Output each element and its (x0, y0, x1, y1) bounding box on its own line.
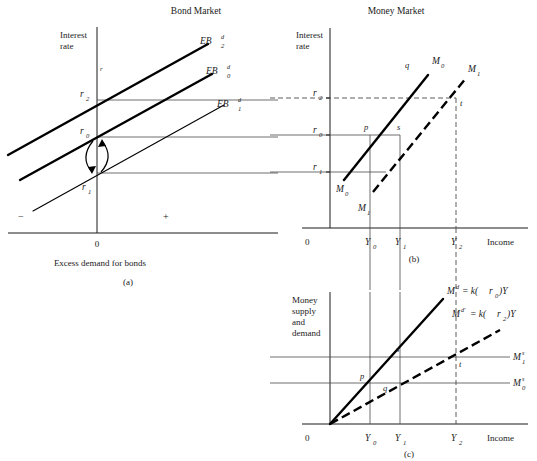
panel-b-y2-base: Y (451, 237, 458, 247)
panel-a-eb2-sub: 2 (221, 42, 225, 49)
panel-b-curve-label-m1-lower: M 1 (357, 203, 370, 216)
panel-b-curve-label-m1-upper: M 1 (467, 64, 480, 77)
panel-c-point-p: p (359, 371, 364, 381)
panel-a-y-axis-label-line2: rate (60, 41, 74, 51)
panel-b-curve-m0 (344, 75, 428, 180)
panel-a-rate-base-r0: r (80, 126, 84, 136)
panel-c-md-eq: = k( (462, 286, 479, 297)
panel-a-rate-label-r1: r 1 (82, 182, 91, 195)
panel-b-income-label-y1: Y 1 (395, 237, 406, 250)
panel-c-label: (c) (404, 449, 414, 459)
panel-c-x-axis-label: Income (487, 433, 514, 443)
panel-b-title: Money Market (368, 6, 425, 16)
panel-c-ms1-sub: 1 (522, 358, 525, 365)
panel-b-m0-lower-sub: 0 (345, 190, 349, 197)
panel-c-ms1-base: M (512, 352, 522, 362)
panel-c-mdp-lhs: M (451, 309, 461, 319)
panel-a-rate-sub-r1: 1 (88, 188, 91, 195)
panel-c-md-rhs: )Y (498, 286, 509, 297)
panel-b-m0-upper-sub: 0 (441, 62, 445, 69)
panel-c-point-q: q (383, 383, 388, 393)
panel-b-origin-label: 0 (305, 237, 310, 247)
panel-a: Bond Market Interest rate r r 2 r 0 (8, 6, 278, 287)
panel-b-m1-lower-sub: 1 (367, 209, 370, 216)
panel-b-m0-lower-base: M (335, 184, 345, 194)
panel-a-eb1-sup: d (238, 96, 242, 103)
panel-b-point-p: p (363, 122, 368, 132)
panel-c-y-axis-label-0: Money (292, 295, 318, 305)
panel-b-y-axis-label-line1: Interest (296, 30, 323, 40)
panel-b-point-s: s (397, 122, 401, 132)
panel-b-point-q: q (405, 60, 410, 70)
panel-c-md-sup: d (456, 283, 460, 290)
panel-c-mdp-arg-base: r (497, 309, 501, 319)
panel-b-rate-sub-r1: 1 (319, 168, 322, 175)
panel-c-y2-base: Y (451, 433, 458, 443)
panel-c-ms0-sub: 0 (522, 384, 526, 391)
panel-b-income-label-y2: Y 2 (451, 237, 463, 250)
panel-a-rate-sub-r2: 2 (86, 95, 90, 102)
panel-a-eb2-base: EB (199, 36, 212, 46)
panel-c-y-axis-label-3: demand (292, 328, 321, 338)
panel-c: Money supply and demand M d = k( r 0 )Y (270, 283, 528, 459)
panel-b-y1-sub: 1 (403, 243, 406, 250)
panel-b: Money Market Interest rate (270, 6, 528, 290)
panel-b-y1-base: Y (395, 237, 402, 247)
panel-c-y2-sub: 2 (459, 439, 463, 446)
panel-b-income-label-y0: Y 0 (365, 237, 377, 250)
panel-b-rate-label-r1: r 1 (313, 162, 330, 175)
panel-a-eb2-sup: d (221, 33, 225, 40)
panel-b-m0-upper-base: M (431, 56, 441, 66)
panel-c-income-label-y2: Y 2 (451, 433, 463, 446)
panel-c-ms0-base: M (512, 378, 522, 388)
panel-b-rate-base-r0: r (313, 125, 317, 135)
panel-c-ms0-sup: s (522, 375, 525, 382)
panel-b-y2-sub: 2 (459, 243, 463, 250)
panel-c-mdp-rhs: )Y (506, 309, 517, 320)
panel-b-y0-base: Y (365, 237, 372, 247)
panel-c-y-axis-label-1: supply (292, 306, 317, 316)
panel-b-curve-label-m0-upper: M 0 (431, 56, 445, 69)
panel-c-y1-base: Y (395, 433, 402, 443)
panel-c-curve-md-prime (330, 330, 500, 424)
panel-b-rate-label-r0: r 0 (313, 125, 330, 138)
panel-b-rate-sub-r0: 0 (319, 131, 323, 138)
panel-c-label-md-prime: M d' = k( r 2 )Y (451, 306, 517, 322)
panel-a-rate-label-r0: r 0 (80, 126, 90, 139)
panel-a-origin-label: 0 (95, 239, 100, 249)
panel-b-y-axis-label-line2: rate (296, 41, 310, 51)
panel-c-income-label-y0: Y 0 (365, 433, 377, 446)
panel-c-curve-md (330, 299, 443, 424)
panel-b-x-axis-label: Income (487, 237, 514, 247)
panel-a-rate-base-r2: r (80, 89, 84, 99)
panel-c-y-axis-label-2: and (292, 317, 305, 327)
panel-c-label-md: M d = k( r 0 )Y (446, 283, 509, 299)
panel-c-mdp-eq: = k( (470, 309, 487, 320)
panel-b-m1-upper-base: M (467, 64, 477, 74)
panel-b-rate-sub-r2: 2 (319, 94, 323, 101)
panel-b-curve-label-m0-lower: M 0 (335, 184, 349, 197)
panel-a-eb0-sub: 0 (227, 72, 231, 79)
panel-a-y-axis-label-line1: Interest (60, 30, 87, 40)
panel-a-eb0-sup: d (227, 63, 231, 70)
panel-c-supply-label-m0: M s 0 (512, 375, 526, 391)
economics-figure: Bond Market Interest rate r r 2 r 0 (0, 0, 537, 461)
panel-b-label: (b) (409, 254, 420, 264)
figure-canvas: Bond Market Interest rate r r 2 r 0 (0, 0, 537, 461)
panel-b-rate-label-r2: r 2 (313, 88, 330, 101)
panel-b-m1-lower-base: M (357, 203, 367, 213)
panel-a-eb1-base: EB (216, 99, 229, 109)
panel-a-negative-sign: − (18, 211, 24, 222)
panel-b-rate-base-r2: r (313, 88, 317, 98)
panel-a-curve-eb2 (8, 44, 208, 155)
panel-a-positive-sign: + (163, 211, 169, 222)
panel-a-title: Bond Market (171, 6, 222, 16)
panel-c-md-arg-base: r (489, 286, 493, 296)
panel-c-y1-sub: 1 (403, 439, 406, 446)
panel-a-eb0-base: EB (205, 66, 218, 76)
panel-c-y0-sub: 0 (373, 439, 377, 446)
panel-c-md-lhs: M (446, 286, 456, 296)
panel-a-label: (a) (123, 277, 133, 287)
panel-a-eb1-sub: 1 (238, 105, 241, 112)
panel-c-mdp-sup: d' (461, 306, 466, 313)
